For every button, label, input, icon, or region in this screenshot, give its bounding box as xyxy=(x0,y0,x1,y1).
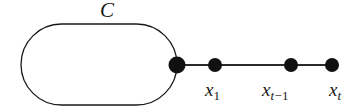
figure-canvas: C x1 xt−1 xt xyxy=(0,0,361,112)
vertex-label-xt-subscript: t xyxy=(337,88,341,103)
graph-drawing xyxy=(0,0,361,112)
vertex-label-x1: x1 xyxy=(205,80,220,102)
vertex-label-x1-subscript: 1 xyxy=(213,88,220,103)
vertex-label-xt-minus-1-offset: −1 xyxy=(274,88,289,103)
node-x1 xyxy=(208,58,222,72)
cycle-label: C xyxy=(100,0,114,21)
node-junction xyxy=(169,57,186,74)
vertex-label-xt: xt xyxy=(329,80,341,102)
node-xt xyxy=(325,58,339,72)
node-xt-minus-1 xyxy=(284,58,298,72)
cycle-stadium-shape xyxy=(21,24,177,105)
vertex-label-xt-minus-1: xt−1 xyxy=(262,80,289,102)
